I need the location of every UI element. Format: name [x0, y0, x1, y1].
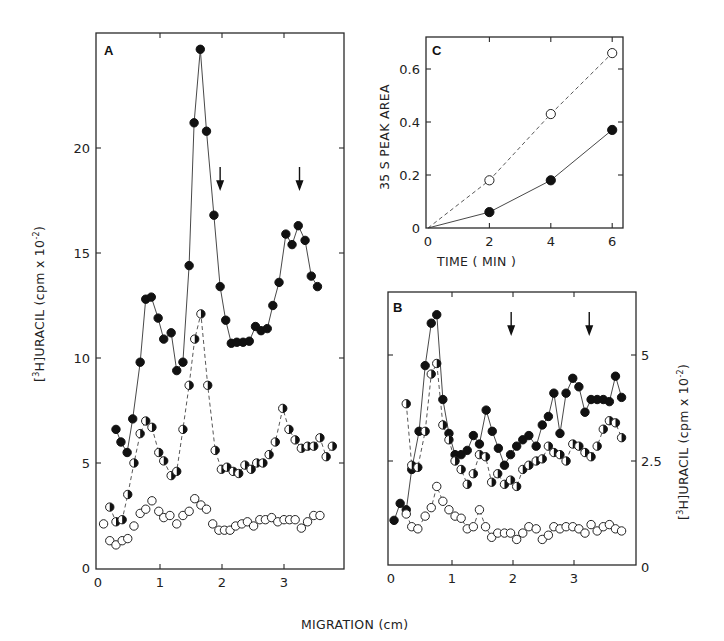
data-point-open	[291, 516, 299, 524]
data-point-filled	[185, 261, 193, 269]
data-point-filled	[482, 406, 490, 414]
x-tick-label: 0	[424, 234, 432, 249]
data-point-half	[427, 370, 435, 378]
data-point-half	[173, 467, 181, 475]
data-point-filled	[427, 319, 435, 327]
y-tick-label: 2.5	[641, 454, 662, 469]
data-point-filled	[544, 412, 552, 420]
data-point-open	[475, 506, 483, 514]
data-point-half	[593, 442, 601, 450]
data-point-filled	[617, 393, 625, 401]
data-point-filled	[245, 337, 253, 345]
data-point-half	[106, 503, 114, 511]
data-point-filled	[190, 119, 198, 127]
data-point-open	[414, 525, 422, 533]
data-point-filled	[196, 45, 204, 53]
arrow-head-icon	[217, 181, 223, 189]
data-point-filled	[307, 272, 315, 280]
x-tick-label: 6	[608, 234, 616, 249]
data-point-open	[402, 510, 410, 518]
data-point-filled	[569, 374, 577, 382]
data-point-filled	[608, 125, 617, 134]
panel-c-letter: C	[432, 43, 442, 58]
data-point-filled	[167, 329, 175, 337]
x-tick-label: 3	[280, 575, 288, 590]
arrow-head-icon	[508, 326, 514, 334]
data-point-filled	[605, 397, 613, 405]
x-tick-label: 0	[387, 571, 395, 586]
y-tick-label: 5	[82, 456, 90, 471]
data-point-filled	[269, 301, 277, 309]
data-point-filled	[494, 444, 502, 452]
data-point-open	[617, 527, 625, 535]
data-point-open	[469, 523, 477, 531]
panel-c-series	[428, 49, 617, 229]
data-point-half	[136, 429, 144, 437]
data-point-half	[310, 442, 318, 450]
data-point-open	[124, 534, 132, 542]
data-point-filled	[475, 440, 483, 448]
data-point-filled	[532, 442, 540, 450]
data-point-open	[546, 109, 555, 118]
panel-b-series	[390, 311, 626, 544]
figure: A 012305101520 [3H]URACIL (cpm x 10-2) B…	[0, 0, 724, 641]
panel-b-ylabel: [3H]URACIL (cpm x 10-2)	[676, 364, 691, 520]
data-point-filled	[313, 282, 321, 290]
data-point-filled	[301, 236, 309, 244]
y-tick-label: 0.2	[399, 168, 420, 183]
y-tick-label: 20	[73, 141, 90, 156]
data-point-open	[166, 511, 174, 519]
data-point-half	[433, 359, 441, 367]
panel-b-arrows	[508, 312, 592, 334]
data-point-half	[291, 436, 299, 444]
data-point-filled	[263, 324, 271, 332]
data-point-open	[481, 523, 489, 531]
data-point-open	[439, 497, 447, 505]
data-point-half	[191, 335, 199, 343]
data-point-open	[421, 512, 429, 520]
data-point-filled	[112, 425, 120, 433]
data-point-half	[271, 438, 279, 446]
panel-a-ylabel: [3H]URACIL (cpm x 10-2)	[32, 226, 47, 382]
y-tick-label: 5	[641, 348, 649, 363]
x-tick-label: 1	[156, 575, 164, 590]
data-point-open	[427, 503, 435, 511]
x-tick-label: 4	[547, 234, 555, 249]
series-line	[394, 315, 621, 521]
y-tick-label: 0.4	[399, 115, 420, 130]
data-point-half	[179, 425, 187, 433]
series-line	[428, 130, 612, 228]
data-point-filled	[469, 431, 477, 439]
data-point-filled	[538, 421, 546, 429]
data-point-filled	[500, 461, 508, 469]
data-point-half	[204, 381, 212, 389]
data-point-open	[99, 520, 107, 528]
data-point-open	[142, 505, 150, 513]
data-point-half	[211, 446, 219, 454]
y-tick-label: 15	[73, 246, 90, 261]
data-point-open	[433, 482, 441, 490]
data-point-filled	[463, 446, 471, 454]
data-point-filled	[485, 208, 494, 217]
data-point-half	[457, 465, 465, 473]
data-point-half	[265, 450, 273, 458]
data-point-filled	[210, 211, 218, 219]
data-point-filled	[294, 222, 302, 230]
data-point-filled	[129, 415, 137, 423]
data-point-half	[130, 459, 138, 467]
y-tick-label: 0	[641, 560, 649, 575]
x-tick-label: 1	[448, 571, 456, 586]
arrow-head-icon	[586, 326, 592, 334]
data-point-half	[259, 459, 267, 467]
data-point-filled	[488, 427, 496, 435]
data-point-half	[235, 469, 243, 477]
data-point-filled	[506, 450, 514, 458]
data-point-filled	[173, 366, 181, 374]
data-point-half	[124, 490, 132, 498]
data-point-filled	[611, 372, 619, 380]
data-point-half	[599, 425, 607, 433]
panel-b: B 012302.55 [3H]URACIL (cpm x 10-2)	[387, 292, 691, 586]
data-point-half	[185, 381, 193, 389]
data-point-half	[562, 457, 570, 465]
data-point-filled	[546, 176, 555, 185]
